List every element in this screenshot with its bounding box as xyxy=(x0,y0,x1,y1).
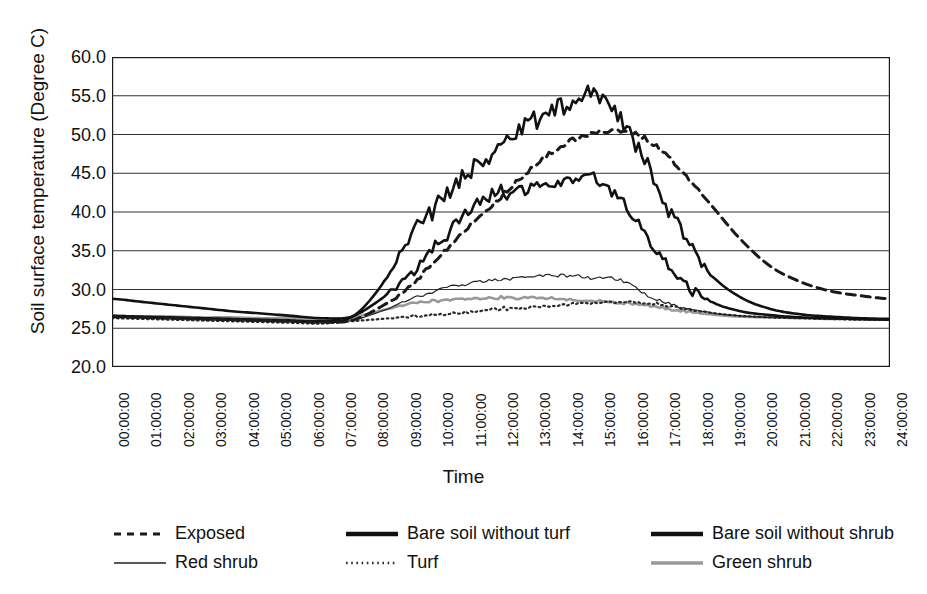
legend-swatch-exposed xyxy=(112,527,168,541)
legend-item-red-shrub[interactable]: Red shrub xyxy=(112,552,344,573)
y-tick-30-0: 30.0 xyxy=(44,281,106,299)
x-tick-5: 05:00:00 xyxy=(279,393,293,448)
x-tick-13: 13:00:00 xyxy=(538,393,552,448)
y-tick-25-0: 25.0 xyxy=(44,319,106,337)
x-tick-20: 20:00:00 xyxy=(765,393,779,448)
x-tick-24: 24:00:00 xyxy=(895,393,909,448)
x-tick-0: 00:00:00 xyxy=(117,393,131,448)
legend-swatch-bare-soil-without-shrub-line xyxy=(649,527,705,541)
x-tick-15: 15:00:00 xyxy=(603,393,617,448)
soil-temperature-chart: Soil surface temperature (Degree C) 20.0… xyxy=(0,0,927,594)
x-tick-1: 01:00:00 xyxy=(149,393,163,448)
legend-row-1: Exposed Bare soil without turf Bare soil… xyxy=(112,519,902,548)
y-tick-40-0: 40.0 xyxy=(44,203,106,221)
legend-swatch-red-shrub-line xyxy=(112,556,168,570)
x-tick-9: 09:00:00 xyxy=(409,393,423,448)
plot-area xyxy=(112,57,890,367)
chart-legend: Exposed Bare soil without turf Bare soil… xyxy=(112,519,902,577)
plot-svg xyxy=(112,57,890,367)
legend-swatch-turf xyxy=(344,556,400,570)
legend-swatch-bare-soil-without-shrub xyxy=(649,527,705,541)
legend-label-green-shrub: Green shrub xyxy=(712,552,812,573)
x-tick-21: 21:00:00 xyxy=(798,393,812,448)
legend-swatch-exposed-line xyxy=(112,527,168,541)
x-tick-3: 03:00:00 xyxy=(214,393,228,448)
x-tick-2: 02:00:00 xyxy=(182,393,196,448)
y-tick-50-0: 50.0 xyxy=(44,126,106,144)
y-tick-55-0: 55.0 xyxy=(44,87,106,105)
x-tick-7: 07:00:00 xyxy=(344,393,358,448)
x-tick-8: 08:00:00 xyxy=(376,393,390,448)
legend-label-bare-soil-without-turf: Bare soil without turf xyxy=(407,523,570,544)
legend-label-turf: Turf xyxy=(407,552,438,573)
legend-swatch-red-shrub xyxy=(112,556,168,570)
legend-swatch-bare-soil-without-turf xyxy=(344,527,400,541)
x-tick-22: 22:00:00 xyxy=(830,393,844,448)
legend-swatch-bare-soil-without-turf-line xyxy=(344,527,400,541)
x-tick-12: 12:00:00 xyxy=(506,393,520,448)
x-axis-title: Time xyxy=(0,466,927,488)
x-tick-16: 16:00:00 xyxy=(636,393,650,448)
x-tick-4: 04:00:00 xyxy=(247,393,261,448)
y-tick-60-0: 60.0 xyxy=(44,48,106,66)
legend-label-bare-soil-without-shrub: Bare soil without shrub xyxy=(712,523,894,544)
x-tick-18: 18:00:00 xyxy=(701,393,715,448)
legend-item-exposed[interactable]: Exposed xyxy=(112,523,344,544)
legend-swatch-green-shrub-line xyxy=(649,556,705,570)
legend-item-bare-soil-without-shrub[interactable]: Bare soil without shrub xyxy=(649,523,902,544)
legend-swatch-green-shrub xyxy=(649,556,705,570)
x-tick-19: 19:00:00 xyxy=(733,393,747,448)
legend-label-red-shrub: Red shrub xyxy=(175,552,258,573)
y-tick-35-0: 35.0 xyxy=(44,242,106,260)
legend-item-bare-soil-without-turf[interactable]: Bare soil without turf xyxy=(344,523,649,544)
y-tick-20-0: 20.0 xyxy=(44,358,106,376)
x-tick-10: 10:00:00 xyxy=(441,393,455,448)
x-tick-17: 17:00:00 xyxy=(668,393,682,448)
legend-row-2: Red shrub Turf Green shrub xyxy=(112,548,902,577)
x-tick-11: 11:00:00 xyxy=(474,394,488,447)
legend-item-green-shrub[interactable]: Green shrub xyxy=(649,552,902,573)
x-tick-14: 14:00:00 xyxy=(571,393,585,448)
legend-swatch-turf-line xyxy=(344,556,400,570)
x-tick-6: 06:00:00 xyxy=(312,393,326,448)
legend-label-exposed: Exposed xyxy=(175,523,245,544)
x-tick-23: 23:00:00 xyxy=(863,393,877,448)
y-tick-45-0: 45.0 xyxy=(44,164,106,182)
legend-item-turf[interactable]: Turf xyxy=(344,552,649,573)
